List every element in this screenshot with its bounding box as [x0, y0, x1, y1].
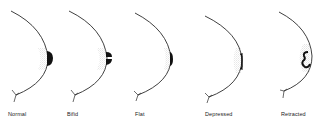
label-bifid: Bifid — [67, 111, 78, 117]
diagram-illustrations — [0, 0, 325, 125]
figure-normal — [11, 11, 53, 102]
figure-bifid — [69, 11, 112, 102]
label-flat: Flat — [135, 111, 145, 117]
nipple-types-diagram: Normal Bifid Flat Depressed Retracted — [0, 0, 325, 125]
label-retracted: Retracted — [281, 111, 306, 117]
label-normal: Normal — [8, 111, 26, 117]
figure-retracted — [279, 12, 312, 98]
figure-flat — [134, 13, 173, 101]
figure-depressed — [205, 16, 243, 103]
label-depressed: Depressed — [205, 111, 233, 117]
